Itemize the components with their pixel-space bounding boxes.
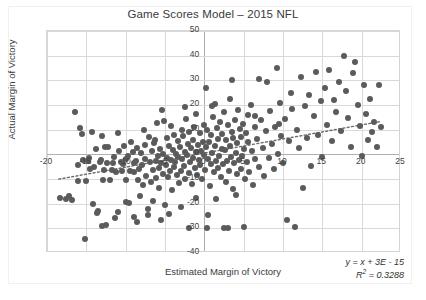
scatter-point <box>219 131 225 137</box>
y-tick-label: 10 <box>173 123 199 133</box>
scatter-point <box>261 173 267 179</box>
scatter-point <box>210 114 216 120</box>
scatter-point <box>141 127 147 133</box>
scatter-point <box>227 143 233 149</box>
scatter-point <box>245 139 251 145</box>
regression-equation: y = x + 3E - 15 <box>345 256 404 268</box>
scatter-point <box>156 185 162 191</box>
scatter-point <box>258 117 264 123</box>
scatter-point <box>227 96 233 102</box>
scatter-point <box>289 106 295 112</box>
scatter-point <box>302 103 308 109</box>
scatter-point <box>145 212 151 218</box>
scatter-point <box>274 65 280 71</box>
scatter-point <box>199 176 205 182</box>
scatter-point <box>267 108 273 114</box>
x-tick-label: -20 <box>31 156 61 166</box>
scatter-point <box>263 128 269 134</box>
scatter-point <box>169 187 175 193</box>
plot-area <box>46 30 400 252</box>
scatter-point <box>139 162 145 168</box>
scatter-point <box>137 193 143 199</box>
scatter-point <box>145 206 151 212</box>
r-squared-number: = 0.3288 <box>369 270 404 280</box>
scatter-point <box>355 102 361 108</box>
gridline-vertical <box>165 31 166 251</box>
scatter-point <box>243 130 249 136</box>
x-tick-label: 10 <box>267 156 297 166</box>
y-tick-label: -10 <box>173 172 199 182</box>
scatter-point <box>376 82 382 88</box>
x-tick-label: -15 <box>70 156 100 166</box>
scatter-point <box>241 224 247 230</box>
scatter-point <box>304 135 310 141</box>
scatter-point <box>181 163 187 169</box>
scatter-point <box>313 69 319 75</box>
scatter-point <box>260 145 266 151</box>
x-tick-label: 0 <box>188 156 218 166</box>
x-tick-label: 20 <box>346 156 376 166</box>
gridline-vertical <box>362 31 363 251</box>
scatter-point <box>158 217 164 223</box>
scatter-point <box>367 96 373 102</box>
scatter-point <box>101 167 107 173</box>
scatter-point <box>284 217 290 223</box>
scatter-point <box>128 139 134 145</box>
scatter-point <box>148 179 154 185</box>
scatter-point <box>203 144 209 150</box>
scatter-point <box>363 111 369 117</box>
scatter-point <box>214 125 220 131</box>
scatter-point <box>326 67 332 73</box>
scatter-point <box>208 132 214 138</box>
scatter-point <box>357 123 363 129</box>
scatter-point <box>225 122 231 128</box>
scatter-point <box>225 225 231 231</box>
chart-title: Game Scores Model – 2015 NFL <box>0 8 426 20</box>
scatter-point <box>324 122 330 128</box>
scatter-point <box>204 225 210 231</box>
scatter-point <box>348 144 354 150</box>
y-tick-label: 30 <box>173 73 199 83</box>
scatter-point <box>100 177 106 183</box>
gridline-horizontal <box>47 80 399 81</box>
scatter-point <box>180 133 186 139</box>
scatter-point <box>221 109 227 115</box>
chart-container: Game Scores Model – 2015 NFL -20-15-10-5… <box>0 0 426 300</box>
gridline-horizontal <box>47 204 399 205</box>
scatter-point <box>369 129 375 135</box>
y-tick-label: 0 <box>173 147 199 157</box>
scatter-point <box>229 77 235 83</box>
scatter-point <box>233 150 239 156</box>
scatter-point <box>233 192 239 198</box>
x-axis-line <box>47 154 399 155</box>
scatter-point <box>213 196 219 202</box>
scatter-point <box>248 102 254 108</box>
scatter-point <box>350 70 356 76</box>
gridline-vertical <box>47 31 48 251</box>
scatter-point <box>352 59 358 65</box>
scatter-point <box>95 208 101 214</box>
scatter-point <box>371 119 377 125</box>
scatter-point <box>162 202 168 208</box>
scatter-point <box>152 137 158 143</box>
scatter-point <box>269 141 275 147</box>
scatter-point <box>331 97 337 103</box>
scatter-point <box>115 209 121 215</box>
scatter-point <box>249 148 255 154</box>
scatter-point <box>183 116 189 122</box>
scatter-point <box>79 131 85 137</box>
scatter-point <box>237 126 243 132</box>
x-tick-label: 25 <box>385 156 415 166</box>
scatter-point <box>57 195 63 201</box>
scatter-point <box>322 85 328 91</box>
scatter-point <box>107 177 113 183</box>
x-tick-label: 15 <box>306 156 336 166</box>
y-tick-label: -20 <box>173 197 199 207</box>
x-tick-label: -10 <box>110 156 140 166</box>
scatter-point <box>241 146 247 152</box>
scatter-point <box>338 128 344 134</box>
scatter-point <box>193 111 199 117</box>
gridline-horizontal <box>47 31 399 32</box>
x-tick-label: -5 <box>149 156 179 166</box>
scatter-point <box>89 129 95 135</box>
